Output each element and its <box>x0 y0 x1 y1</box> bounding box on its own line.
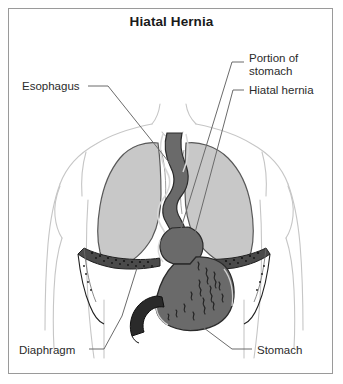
lung-right <box>98 143 161 267</box>
label-stomach: Stomach <box>257 344 302 357</box>
label-diaphragm: Diaphragm <box>19 344 75 357</box>
label-portion-of-stomach: Portion of stomach <box>249 52 298 77</box>
leader-diaphragm <box>89 268 137 349</box>
label-hiatal-hernia: Hiatal hernia <box>249 84 314 97</box>
hiatal-hernia-figure: Hiatal Hernia <box>0 0 343 384</box>
label-esophagus: Esophagus <box>22 80 80 93</box>
